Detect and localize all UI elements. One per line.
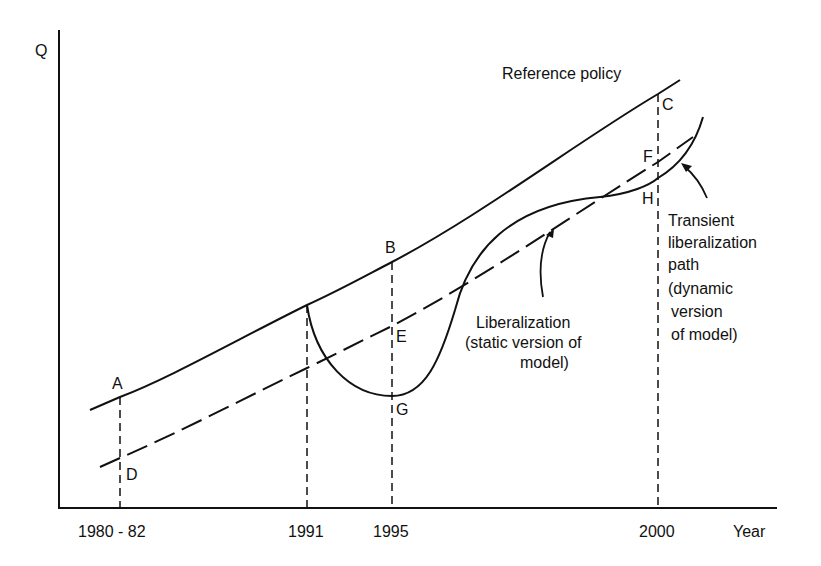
static-label-line-1: Liberalization [476,314,570,331]
static-label-line-3: model) [520,354,569,371]
dynamic-label-line-4: (dynamic [668,280,733,297]
dynamic-label-line-5: version [671,303,723,320]
x-axis-label: Year [733,523,766,540]
point-label-e: E [396,328,407,345]
chart-figure: Q Year 1980 - 82 1991 1995 2000 A B C D … [0,0,821,566]
y-axis-label: Q [35,42,47,59]
point-label-a: A [112,375,123,392]
dynamic-label-line-3: path [668,256,699,273]
point-label-g: G [396,401,408,418]
point-label-b: B [385,239,396,256]
static-annotation: Liberalization (static version of model) [465,314,582,371]
static-annotation-arrow [540,232,550,297]
vertical-guides [120,94,658,508]
annotation-arrows [540,163,707,297]
point-label-h: H [642,190,654,207]
static-label-line-2: (static version of [465,334,582,351]
dynamic-label-line-2: liberalization [668,234,757,251]
dynamic-annotation: Transient liberalization path (dynamic v… [668,212,757,343]
x-tick-1995: 1995 [373,523,409,540]
reference-policy-label: Reference policy [502,65,621,82]
dynamic-label-line-6: of model) [671,326,738,343]
point-label-c: C [662,96,674,113]
point-label-d: D [126,466,138,483]
dynamic-annotation-arrow [684,166,707,198]
point-label-f: F [643,148,653,165]
x-tick-1991: 1991 [288,523,324,540]
dynamic-label-line-1: Transient [668,212,735,229]
x-tick-2000: 2000 [639,523,675,540]
x-tick-1980-82: 1980 - 82 [78,523,146,540]
